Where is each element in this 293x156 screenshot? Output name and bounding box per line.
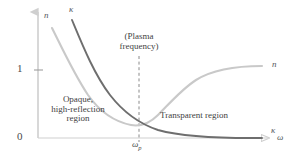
- kappa-curve-label-right: κ: [271, 126, 275, 136]
- opaque-region-annotation: Opaque, high-reflection region: [38, 95, 118, 124]
- n-curve-label-right: n: [272, 60, 277, 70]
- plasma-annotation-line2: frequency): [103, 42, 175, 52]
- omega-p-subscript: p: [138, 144, 141, 151]
- plasma-frequency-diagram: 1 0 n κ n κ ω ωp (Plasma frequency) Opaq…: [0, 0, 293, 156]
- plasma-frequency-annotation: (Plasma frequency): [103, 32, 175, 51]
- y-axis-tick-label-one: 1: [17, 63, 23, 75]
- kappa-curve-label-left: κ: [69, 5, 73, 15]
- y-axis-tick-label-zero: 0: [17, 131, 23, 143]
- n-curve-label-left: n: [44, 11, 49, 21]
- opaque-annotation-line3: region: [38, 114, 118, 124]
- plot-canvas: [0, 0, 293, 156]
- transparent-region-annotation: Transparent region: [160, 111, 228, 121]
- omega-p-tick-label: ωp: [132, 140, 142, 151]
- x-axis-label: ω: [277, 133, 283, 143]
